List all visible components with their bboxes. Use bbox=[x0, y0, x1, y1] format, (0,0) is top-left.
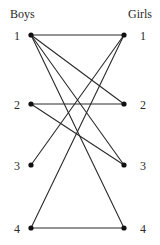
group-heading-right: Girls bbox=[128, 7, 152, 21]
node-label-G3: 3 bbox=[140, 159, 146, 173]
graph-node-G2 bbox=[121, 101, 126, 106]
graph-canvas: Boys1234Girls1234 bbox=[0, 0, 160, 245]
figure-background bbox=[0, 0, 160, 245]
graph-node-G4 bbox=[121, 225, 126, 230]
graph-node-B1 bbox=[28, 32, 33, 37]
node-label-G2: 2 bbox=[140, 98, 146, 112]
node-label-G1: 1 bbox=[140, 29, 146, 43]
node-label-B4: 4 bbox=[14, 222, 20, 236]
graph-node-B4 bbox=[28, 225, 33, 230]
graph-node-G3 bbox=[121, 162, 126, 167]
node-label-B2: 2 bbox=[14, 98, 20, 112]
node-label-B1: 1 bbox=[14, 29, 20, 43]
graph-node-G1 bbox=[121, 32, 126, 37]
graph-node-B3 bbox=[28, 162, 33, 167]
node-label-G4: 4 bbox=[140, 222, 146, 236]
group-heading-left: Boys bbox=[10, 7, 35, 21]
node-label-B3: 3 bbox=[14, 159, 20, 173]
bipartite-graph-figure: Boys1234Girls1234 bbox=[0, 0, 160, 245]
graph-node-B2 bbox=[28, 101, 33, 106]
